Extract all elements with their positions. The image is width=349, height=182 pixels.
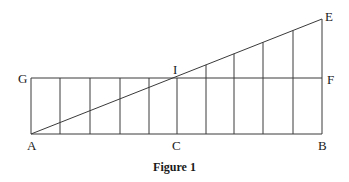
label-point-a: A — [27, 139, 36, 152]
label-point-g: G — [18, 72, 27, 85]
label-point-e: E — [325, 10, 333, 23]
label-point-b: B — [318, 139, 327, 152]
geometry-figure — [0, 0, 349, 182]
label-point-f: F — [327, 73, 334, 86]
label-point-i: I — [173, 63, 177, 76]
figure-caption: Figure 1 — [0, 160, 349, 175]
label-point-c: C — [172, 139, 181, 152]
